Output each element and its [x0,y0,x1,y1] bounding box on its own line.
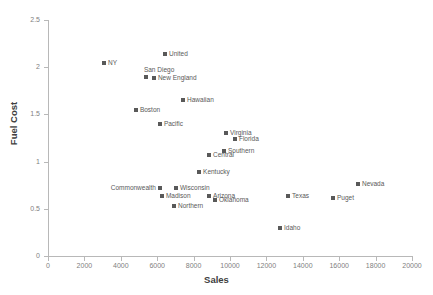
data-point-label: Commonwealth [111,184,156,191]
x-tick-mark [48,257,49,261]
data-point-marker[interactable] [160,194,164,198]
data-point-marker[interactable] [158,186,162,190]
y-tick-label: 0 [6,252,40,260]
data-point-label: Oklahoma [219,196,249,203]
data-point-label: Pacific [164,120,183,127]
y-tick-label: 0.5 [6,205,40,213]
data-point-marker[interactable] [207,153,211,157]
y-tick-label-text: 1 [36,158,40,166]
x-tick-label: 12000 [246,262,286,270]
y-tick-label: 2.5 [6,16,40,24]
y-tick-label-text: 0.5 [30,205,40,213]
data-point-label: Idaho [284,224,300,231]
x-axis-title: Sales [0,274,433,285]
data-point-marker[interactable] [163,52,167,56]
x-tick-label: 0 [28,262,68,270]
data-point-marker[interactable] [152,76,156,80]
data-point-marker[interactable] [286,194,290,198]
data-point-label: New England [158,74,197,81]
data-point-label: Hawaiian [187,96,214,103]
data-point-label: Nevada [362,180,384,187]
data-point-label: Madison [166,192,191,199]
data-point-marker[interactable] [331,196,335,200]
x-tick-mark [194,257,195,261]
data-point-marker[interactable] [213,198,217,202]
y-tick-label-text: 0 [36,252,40,260]
x-tick-label: 18000 [356,262,396,270]
data-point-label: Boston [140,106,160,113]
x-tick-mark [303,257,304,261]
data-point-marker[interactable] [278,226,282,230]
data-point-label: San Diego [144,66,174,73]
y-tick-label-text: 2 [36,63,40,71]
plot-area: NYUnitedSan DiegoNew EnglandHawaiianBost… [48,20,412,256]
x-tick-mark [121,257,122,261]
x-tick-label: 8000 [174,262,214,270]
data-point-marker[interactable] [134,108,138,112]
data-point-marker[interactable] [356,182,360,186]
data-point-label: Kentucky [203,168,230,175]
scatter-chart: 00.511.522.5 020004000600080001000012000… [0,0,433,295]
y-axis-title: Fuel Cost [8,74,19,174]
data-point-marker[interactable] [224,131,228,135]
x-tick-mark [84,257,85,261]
data-point-label: Texas [292,192,309,199]
data-point-marker[interactable] [233,137,237,141]
x-tick-mark [339,257,340,261]
y-tick-label-text: 1.5 [30,110,40,118]
x-tick-label: 10000 [210,262,250,270]
data-point-marker[interactable] [181,98,185,102]
data-point-label: United [169,50,188,57]
y-tick-label-text: 2.5 [30,16,40,24]
x-tick-label: 2000 [64,262,104,270]
x-tick-label: 4000 [101,262,141,270]
x-tick-mark [266,257,267,261]
data-point-marker[interactable] [197,170,201,174]
data-point-marker[interactable] [174,186,178,190]
data-point-label: Florida [239,135,259,142]
x-tick-mark [412,257,413,261]
data-point-marker[interactable] [207,194,211,198]
x-tick-label: 14000 [283,262,323,270]
data-point-marker[interactable] [144,75,148,79]
x-tick-mark [376,257,377,261]
data-point-marker[interactable] [158,122,162,126]
x-tick-mark [157,257,158,261]
x-tick-mark [230,257,231,261]
data-point-label: Northern [178,202,203,209]
x-tick-label: 6000 [137,262,177,270]
data-point-marker[interactable] [102,61,106,65]
data-point-label: Puget [337,194,354,201]
data-point-label: Wisconsin [180,184,210,191]
data-point-marker[interactable] [172,204,176,208]
y-tick-label: 2 [6,63,40,71]
x-tick-label: 16000 [319,262,359,270]
x-tick-label: 20000 [392,262,432,270]
data-point-label: NY [108,59,117,66]
data-point-label: Central [213,151,234,158]
